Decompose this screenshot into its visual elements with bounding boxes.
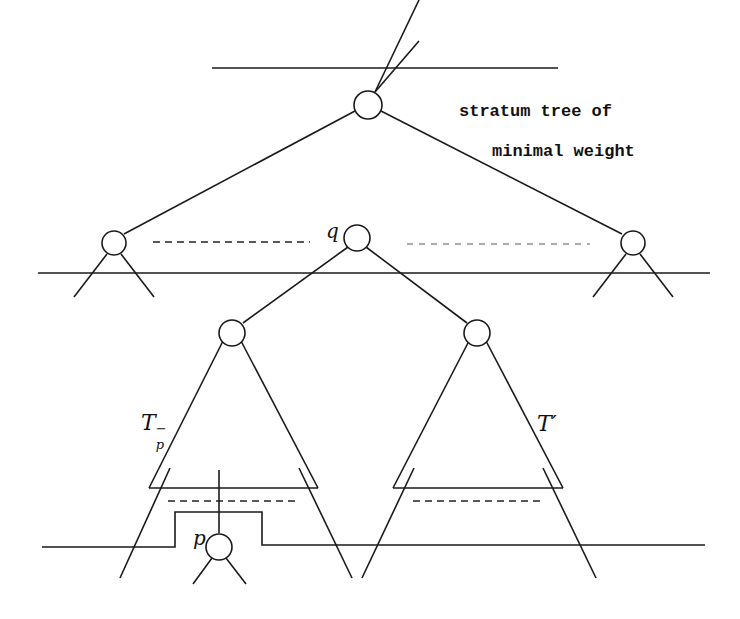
diagram-lines <box>0 0 740 619</box>
caption-line-2: minimal weight <box>492 143 635 160</box>
q-right-edge <box>366 247 467 323</box>
stratum-tree-diagram: stratum tree of minimal weight q p T−p T… <box>0 0 740 619</box>
left-inner-leg <box>299 468 352 578</box>
q-label: q <box>326 221 339 241</box>
tprime-left-side <box>393 341 469 488</box>
root-left-edge <box>124 111 355 234</box>
p-node <box>206 534 232 560</box>
tprime-outer-leg-r <box>543 468 596 578</box>
right-node-leg-l <box>593 254 626 297</box>
p-leg-r <box>226 558 246 584</box>
root-parent-edge <box>375 0 419 92</box>
tp-label-sub: p <box>156 438 164 451</box>
tp-label-base: T <box>141 410 156 435</box>
p-label: p <box>193 528 206 548</box>
root-right-edge <box>381 111 622 234</box>
caption-line-1: stratum tree of <box>459 103 612 120</box>
q-right-child-node <box>464 320 490 346</box>
left-outer-leg <box>120 468 170 578</box>
tp-right-side <box>241 341 318 488</box>
p-leg-l <box>193 558 212 584</box>
root-parent-edge-line <box>375 41 419 92</box>
tp-label: T−p <box>141 412 166 434</box>
tp-label-sup: − <box>156 422 167 435</box>
root-node <box>354 91 382 119</box>
right-node-leg-r <box>640 254 673 297</box>
tprime-label: T′ <box>537 413 557 435</box>
tprime-outer-leg-l <box>362 468 414 578</box>
q-left-edge <box>243 247 348 323</box>
q-left-child-node <box>219 320 245 346</box>
right-node <box>621 231 645 255</box>
left-node-leg-l <box>74 254 107 297</box>
left-node-leg-r <box>121 254 154 297</box>
q-node <box>344 225 370 251</box>
left-node <box>102 231 126 255</box>
